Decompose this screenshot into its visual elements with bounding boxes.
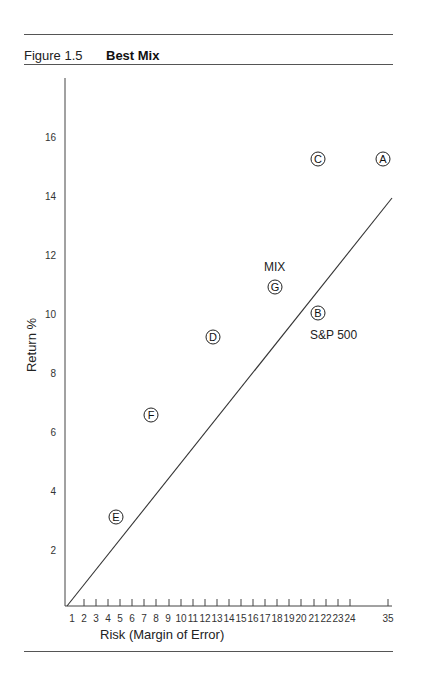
marker-e: E xyxy=(109,510,123,524)
x-tick-label: 18 xyxy=(271,613,283,624)
x-tick-label: 5 xyxy=(117,613,123,624)
marker-a: A xyxy=(376,152,390,166)
marker-g: G xyxy=(268,280,282,294)
x-tick-label: 22 xyxy=(320,613,332,624)
marker-label: F xyxy=(148,409,155,421)
x-tick-label: 8 xyxy=(153,613,159,624)
x-tick-label: 12 xyxy=(199,613,211,624)
bottom-rule xyxy=(24,651,393,652)
x-tick-label: 4 xyxy=(105,613,111,624)
x-tick-label: 17 xyxy=(259,613,271,624)
marker-label: C xyxy=(314,153,322,165)
x-tick-label: 9 xyxy=(165,613,171,624)
marker-label: G xyxy=(271,281,280,293)
x-tick-label: 14 xyxy=(223,613,235,624)
x-tick-label: 20 xyxy=(295,613,307,624)
x-tick-label: 3 xyxy=(93,613,99,624)
marker-d: D xyxy=(206,330,220,344)
x-tick-label: 7 xyxy=(141,613,147,624)
x-tick-label: 13 xyxy=(211,613,223,624)
marker-label: B xyxy=(314,307,321,319)
marker-label: D xyxy=(209,331,217,343)
x-tick-labels: 1 2 3 4 5 6 7 8 9 10 11 12 13 14 15 16 1… xyxy=(69,613,394,624)
y-tick-labels: 2 4 6 8 10 12 14 16 xyxy=(45,132,57,556)
x-tick-label: 6 xyxy=(129,613,135,624)
x-ticks xyxy=(84,599,388,606)
y-tick-label: 10 xyxy=(45,309,57,320)
y-tick-label: 12 xyxy=(45,250,57,261)
y-tick-label: 8 xyxy=(50,368,56,379)
x-tick-label: 19 xyxy=(283,613,295,624)
x-axis-title: Risk (Margin of Error) xyxy=(100,627,224,642)
marker-label: E xyxy=(112,511,119,523)
x-tick-label: 2 xyxy=(81,613,87,624)
x-tick-label: 10 xyxy=(175,613,187,624)
market-line xyxy=(67,198,392,606)
x-tick-label: 15 xyxy=(235,613,247,624)
x-tick-label: 11 xyxy=(188,613,199,624)
mix-annotation: MIX xyxy=(264,260,285,274)
x-tick-label: 23 xyxy=(332,613,344,624)
marker-b: B xyxy=(311,306,325,320)
marker-f: F xyxy=(144,408,158,422)
y-tick-label: 14 xyxy=(45,191,57,202)
y-tick-label: 2 xyxy=(50,545,56,556)
y-tick-label: 6 xyxy=(50,427,56,438)
sp500-annotation: S&P 500 xyxy=(310,328,357,342)
x-tick-label: 24 xyxy=(344,613,356,624)
y-axis-title: Return % xyxy=(24,317,39,372)
scatter-chart: 2 4 6 8 10 12 14 16 Return % xyxy=(0,0,421,680)
x-tick-label: 35 xyxy=(382,613,394,624)
marker-label: A xyxy=(379,153,387,165)
y-tick-label: 16 xyxy=(45,132,57,143)
y-tick-label: 4 xyxy=(50,486,56,497)
x-tick-label: 21 xyxy=(308,613,320,624)
x-tick-label: 1 xyxy=(69,613,75,624)
x-tick-label: 16 xyxy=(247,613,259,624)
marker-c: C xyxy=(311,152,325,166)
